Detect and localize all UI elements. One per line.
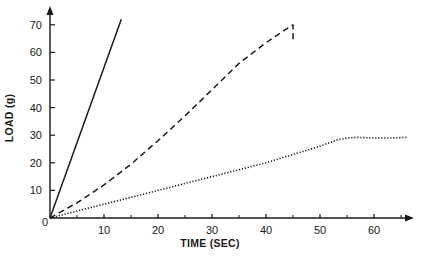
x-tick-label: 60 — [368, 224, 380, 236]
y-tick-label: 20 — [30, 157, 42, 169]
y-tick-label: 40 — [30, 102, 42, 114]
y-tick-label: 10 — [30, 184, 42, 196]
x-tick-label: 40 — [260, 224, 272, 236]
x-tick-label: 30 — [206, 224, 218, 236]
y-ticks: 10203040506070 — [30, 19, 55, 197]
x-tick-label: 20 — [152, 224, 164, 236]
origin-label: 0 — [42, 216, 48, 228]
chart: 102030405060 10203040506070 0 TIME (SEC)… — [0, 0, 425, 259]
x-tick-label: 50 — [314, 224, 326, 236]
series-dashed-line — [50, 25, 293, 218]
y-tick-label: 70 — [30, 19, 42, 31]
y-axis-title: LOAD (g) — [3, 94, 15, 142]
y-tick-label: 60 — [30, 46, 42, 58]
series-dotted-line — [50, 137, 406, 218]
data-series — [50, 19, 406, 218]
x-axis-arrow-icon — [405, 215, 414, 222]
x-axis-title: TIME (SEC) — [180, 237, 240, 249]
series-solid-line — [50, 19, 121, 218]
y-tick-label: 50 — [30, 74, 42, 86]
y-axis-arrow-icon — [47, 6, 54, 15]
axes: 102030405060 10203040506070 — [30, 6, 414, 236]
y-tick-label: 30 — [30, 129, 42, 141]
x-tick-label: 10 — [98, 224, 110, 236]
